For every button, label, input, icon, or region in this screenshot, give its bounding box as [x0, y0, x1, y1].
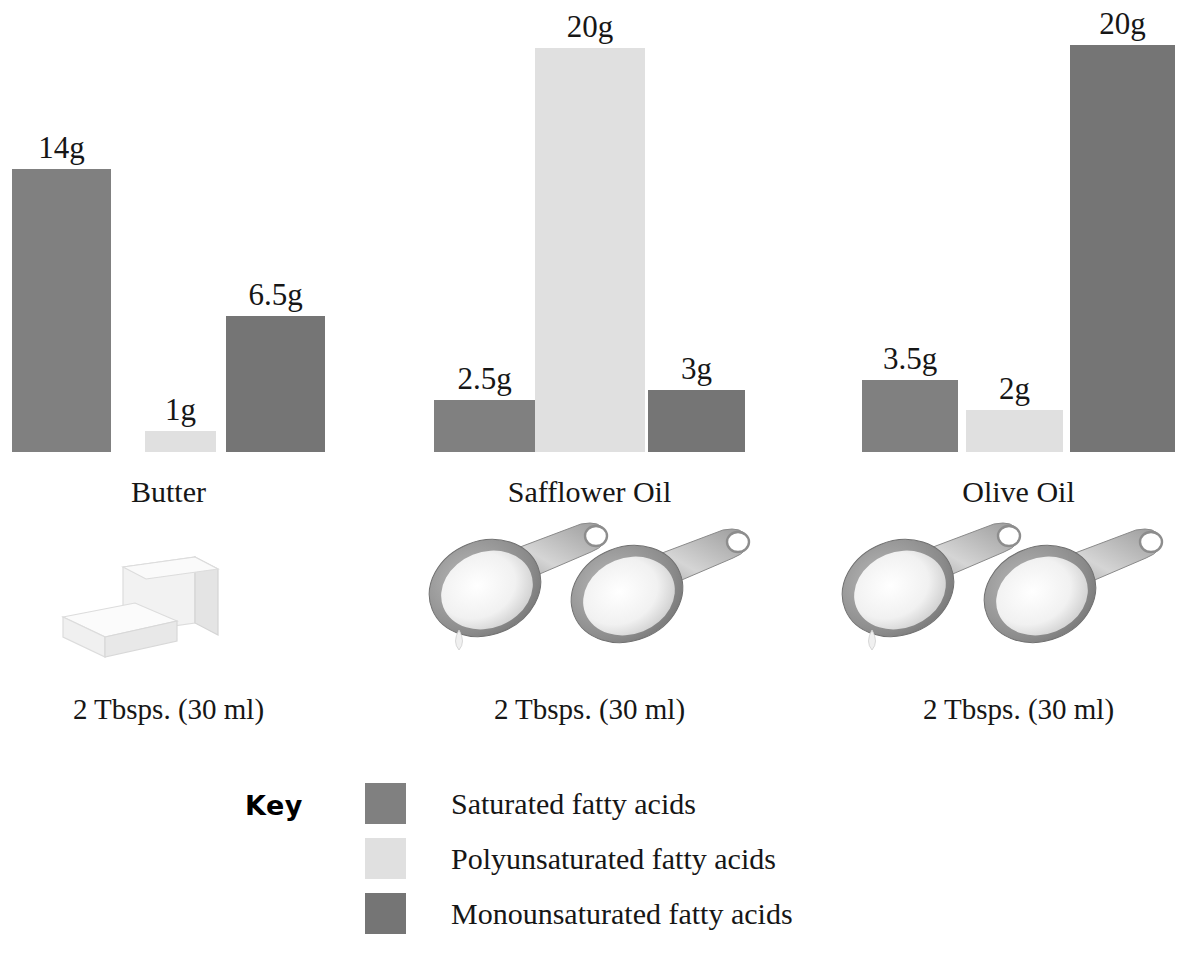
legend-swatch-polyunsaturated: [365, 838, 406, 879]
measuring-spoons-illustration: [425, 512, 780, 672]
bar-value-label: 2.5g: [457, 363, 511, 394]
butter-pats-illustration: [55, 545, 285, 670]
bar-value-label: 20g: [1099, 8, 1146, 39]
legend-item-polyunsaturated: Polyunsaturated fatty acids: [365, 838, 776, 879]
bar-fill-monounsaturated: [648, 390, 745, 452]
group-caption-olive-oil: 2 Tbsps. (30 ml): [862, 695, 1175, 724]
measuring-spoons-illustration: [838, 512, 1193, 672]
bar-fill-monounsaturated: [1070, 45, 1175, 452]
group-caption-butter: 2 Tbsps. (30 ml): [12, 695, 325, 724]
bar-value-label: 3.5g: [883, 343, 937, 374]
group-label-safflower-oil: Safflower Oil: [434, 477, 745, 507]
legend-swatch-monounsaturated: [365, 893, 406, 934]
bar-fill-polyunsaturated: [535, 48, 645, 452]
group-caption-safflower-oil: 2 Tbsps. (30 ml): [434, 695, 745, 724]
bar-butter-polyunsaturated: 1g: [145, 431, 216, 452]
bar-fill-monounsaturated: [226, 316, 325, 452]
bar-butter-saturated: 14g: [12, 169, 111, 452]
legend-item-monounsaturated: Monounsaturated fatty acids: [365, 893, 793, 934]
bar-fill-saturated: [12, 169, 111, 452]
bar-value-label: 1g: [165, 394, 196, 425]
bar-value-label: 6.5g: [248, 279, 302, 310]
fatty-acid-comparison-chart: 14g 1g 6.5g Butter 2 Tbsps. (30 ml): [0, 0, 1194, 965]
bar-olive-polyunsaturated: 2g: [966, 410, 1063, 452]
legend-item-saturated: Saturated fatty acids: [365, 783, 696, 824]
group-label-olive-oil: Olive Oil: [862, 477, 1175, 507]
group-label-butter: Butter: [12, 477, 325, 507]
key-title: Key: [245, 790, 303, 821]
bar-butter-monounsaturated: 6.5g: [226, 316, 325, 452]
bar-fill-saturated: [434, 400, 535, 452]
bar-olive-monounsaturated: 20g: [1070, 45, 1175, 452]
bar-olive-saturated: 3.5g: [862, 380, 958, 452]
bar-value-label: 14g: [38, 132, 85, 163]
bar-fill-polyunsaturated: [145, 431, 216, 452]
legend-label-polyunsaturated: Polyunsaturated fatty acids: [451, 844, 776, 874]
bar-fill-polyunsaturated: [966, 410, 1063, 452]
bar-safflower-polyunsaturated: 20g: [535, 48, 645, 452]
legend-label-saturated: Saturated fatty acids: [451, 789, 696, 819]
bar-value-label: 20g: [567, 11, 614, 42]
bar-fill-saturated: [862, 380, 958, 452]
bar-safflower-saturated: 2.5g: [434, 400, 535, 452]
bar-safflower-monounsaturated: 3g: [648, 390, 745, 452]
legend-label-monounsaturated: Monounsaturated fatty acids: [451, 899, 793, 929]
bar-value-label: 2g: [999, 373, 1030, 404]
bar-value-label: 3g: [681, 353, 712, 384]
legend-swatch-saturated: [365, 783, 406, 824]
